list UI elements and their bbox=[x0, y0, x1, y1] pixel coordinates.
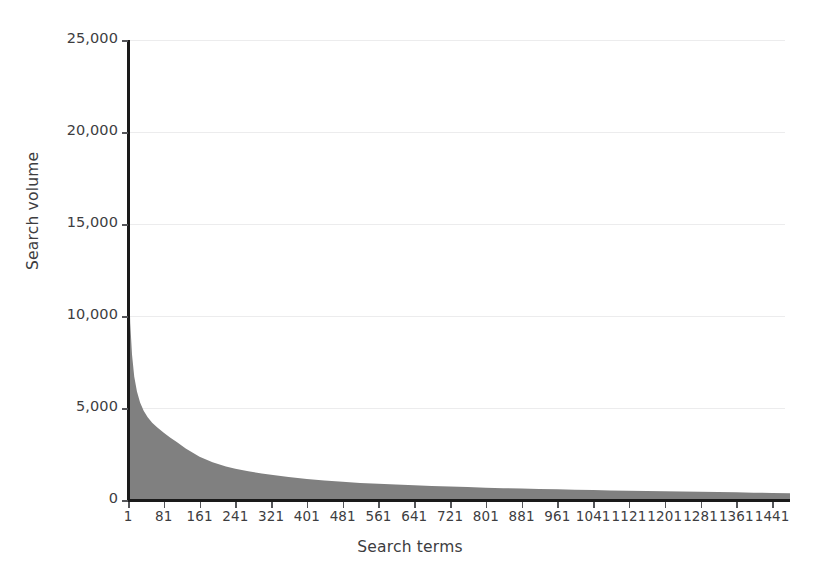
y-axis-line bbox=[127, 40, 130, 501]
x-tick-label: 961 bbox=[544, 508, 570, 524]
plot-area bbox=[128, 40, 790, 500]
x-tick-label: 1121 bbox=[612, 508, 647, 524]
y-tick-label: 0 bbox=[109, 490, 118, 506]
x-tick-label: 1441 bbox=[755, 508, 790, 524]
y-tick-mark bbox=[122, 408, 128, 410]
x-axis-title: Search terms bbox=[0, 538, 820, 556]
x-tick-label: 881 bbox=[509, 508, 535, 524]
x-tick-label: 241 bbox=[222, 508, 248, 524]
x-tick-label: 1361 bbox=[719, 508, 754, 524]
y-axis-title: Search volume bbox=[24, 152, 42, 270]
x-axis-line bbox=[128, 499, 790, 502]
x-tick-label: 1281 bbox=[683, 508, 718, 524]
y-tick-label: 10,000 bbox=[67, 306, 118, 322]
x-tick-label: 721 bbox=[437, 508, 463, 524]
x-tick-label: 1 bbox=[124, 508, 133, 524]
y-tick-mark bbox=[122, 316, 128, 318]
area-series-search-volume bbox=[128, 40, 790, 500]
x-tick-label: 81 bbox=[155, 508, 172, 524]
y-tick-mark bbox=[122, 224, 128, 226]
y-tick-mark bbox=[122, 132, 128, 134]
x-tick-label: 481 bbox=[330, 508, 356, 524]
y-tick-label: 5,000 bbox=[76, 398, 118, 414]
x-tick-label: 161 bbox=[187, 508, 213, 524]
x-tick-label: 801 bbox=[473, 508, 499, 524]
x-tick-label: 561 bbox=[365, 508, 391, 524]
x-tick-label: 1201 bbox=[647, 508, 682, 524]
x-tick-label: 1041 bbox=[576, 508, 611, 524]
search-volume-long-tail-chart: 05,00010,00015,00020,00025,000 181161241… bbox=[0, 0, 820, 587]
y-tick-label: 15,000 bbox=[67, 214, 118, 230]
x-tick-label: 641 bbox=[401, 508, 427, 524]
y-tick-mark bbox=[122, 40, 128, 42]
x-tick-label: 321 bbox=[258, 508, 284, 524]
x-tick-label: 401 bbox=[294, 508, 320, 524]
y-tick-label: 25,000 bbox=[67, 30, 118, 46]
y-tick-label: 20,000 bbox=[67, 122, 118, 138]
